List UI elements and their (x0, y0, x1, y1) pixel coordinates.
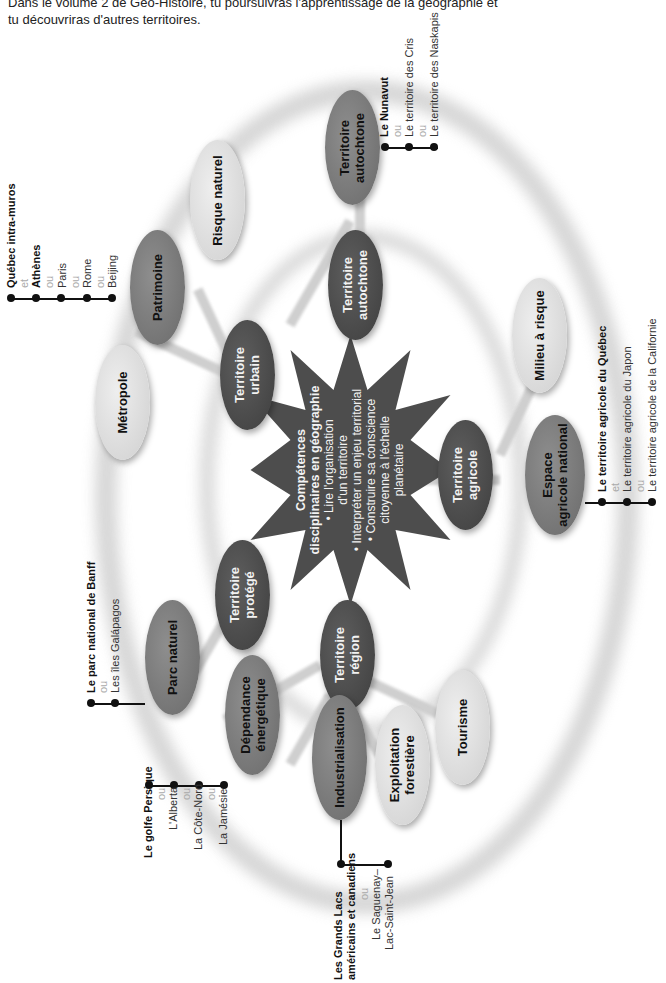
node-label: Territoire autochtone (338, 112, 368, 182)
node-territoire-protege[interactable]: Territoire protégé (215, 540, 270, 650)
node-label: Dépendance énergétique (238, 676, 268, 753)
connector-word: et (609, 483, 621, 492)
node-label: Territoire région (333, 627, 363, 683)
connector-word: ou (43, 276, 55, 288)
connector-word: ou (180, 788, 192, 800)
node-exploitation-forestiere[interactable]: Exploitation forestière (375, 705, 430, 825)
competence-item: • Construire sa conscience (364, 340, 378, 600)
node-label: Industrialisation (332, 707, 347, 807)
example-main: américains et canadiens (345, 853, 357, 980)
example-item: La Jamésie (217, 789, 229, 845)
competence-item: • Interpréter un enjeu territorial (350, 340, 364, 600)
node-parc-naturel[interactable]: Parc naturel (145, 600, 200, 715)
node-label: Territoire urbain (233, 347, 263, 403)
example-main: Le Nunavut (378, 77, 390, 137)
node-label: Tourisme (455, 699, 470, 757)
example-main: Le golfe Persique (142, 766, 154, 858)
node-label: Territoire agricole (451, 447, 481, 503)
competence-item: citoyenne à l'échelle (378, 340, 392, 600)
node-metropole[interactable]: Métropole (95, 345, 150, 460)
example-item: Rome (81, 259, 93, 288)
example-item: Athènes (30, 245, 42, 288)
node-territoire-urbain[interactable]: Territoire urbain (220, 320, 275, 430)
connector-word: ou (155, 788, 167, 800)
competence-item: d'un territoire (336, 340, 350, 600)
node-risque-naturel[interactable]: Risque naturel (190, 140, 245, 260)
example-main: Le parc national de Banff (85, 562, 97, 693)
node-dependance-energetique[interactable]: Dépendance énergétique (225, 655, 280, 775)
example-item: L'Alberta (167, 787, 179, 830)
node-label: Territoire protégé (228, 567, 258, 623)
node-tourisme[interactable]: Tourisme (435, 670, 490, 785)
example-main: Québec intra-muros (5, 183, 17, 288)
node-patrimoine[interactable]: Patrimoine (130, 230, 185, 345)
intro-line-2: tu découvriras d'autres territoires. (8, 11, 658, 28)
node-label: Milieu à risque (532, 290, 547, 380)
connector-word: ou (97, 681, 109, 693)
node-label: Risque naturel (210, 155, 225, 245)
node-territoire-agricole[interactable]: Territoire agricole (438, 420, 493, 530)
example-item: Le territoire agricole du Japon (621, 346, 633, 492)
connector-word: et (18, 279, 30, 288)
connector-word: ou (416, 125, 428, 137)
node-label: Territoire autochtone (341, 250, 371, 320)
example-main: Le territoire agricole du Québec (596, 326, 608, 492)
connector-word: ou (391, 125, 403, 137)
node-label: Métropole (115, 371, 130, 433)
connector-word: ou (69, 276, 81, 288)
example-item: Les îles Galápagos (109, 599, 121, 693)
node-label: Patrimoine (150, 254, 165, 321)
competences-text: Compétences disciplinaires en géographie… (294, 340, 406, 600)
example-item: Le territoire des Cris (403, 38, 415, 137)
node-industrialisation[interactable]: Industrialisation (312, 695, 367, 820)
competence-item: planétaire (392, 340, 406, 600)
intro-text: Dans le volume 2 de Géo-Histoire, tu pou… (8, 0, 658, 28)
example-item: Le territoire des Naskapis (428, 12, 440, 137)
node-label: Exploitation forestière (388, 728, 418, 802)
example-item: Paris (56, 263, 68, 288)
connector-word: ou (634, 480, 646, 492)
intro-line-1: Dans le volume 2 de Géo-Histoire, tu pou… (8, 0, 658, 11)
node-territoire-region[interactable]: Territoire région (320, 600, 375, 710)
node-espace-agricole-national[interactable]: Espace agricole national (525, 415, 585, 535)
connector-word: ou (358, 888, 370, 900)
competences-title-1: Compétences (294, 340, 308, 600)
connector-word: ou (94, 276, 106, 288)
competence-item: • Lire l'organisation (322, 340, 336, 600)
example-main: Les Grands Lacs (332, 891, 344, 980)
node-label: Espace agricole national (540, 423, 570, 526)
example-item: Le territoire agricole de la Californie (646, 318, 658, 492)
example-item: Lac-Saint-Jean (383, 876, 395, 950)
node-milieu-a-risque[interactable]: Milieu à risque (512, 278, 567, 393)
connector-word: ou (205, 788, 217, 800)
node-label: Parc naturel (165, 620, 180, 695)
example-item: La Côte-Nord (192, 784, 204, 850)
node-territoire-autochtone-outer[interactable]: Territoire autochtone (325, 90, 380, 205)
example-item: Le Saguenay– (370, 869, 382, 940)
competences-title-2: disciplinaires en géographie (308, 340, 322, 600)
example-item: Beijing (106, 255, 118, 288)
node-territoire-autochtone-inner[interactable]: Territoire autochtone (328, 230, 383, 340)
